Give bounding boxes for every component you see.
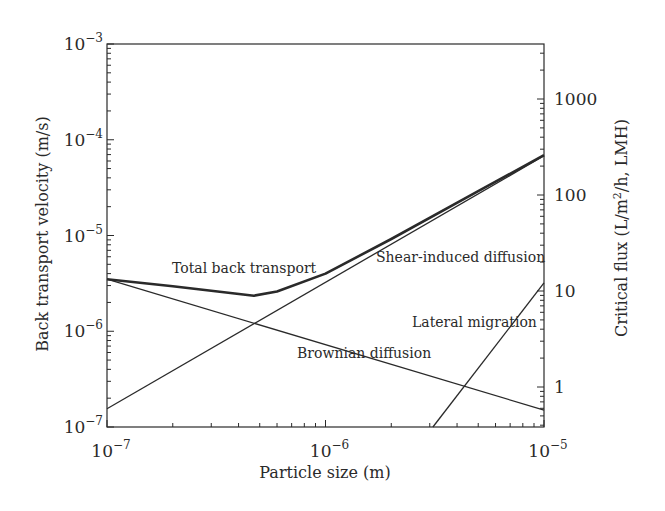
- y-tick-label: 10−7: [64, 414, 103, 437]
- series-annotations: Total back transportShear-induced diffus…: [172, 249, 545, 361]
- y2-axis-title: Critical flux (L/m2/h, LMH): [611, 119, 631, 337]
- y2-tick-label: 1000: [554, 89, 597, 109]
- x-axis-title: Particle size (m): [259, 463, 390, 482]
- y2-tick-label: 10: [554, 281, 576, 301]
- ticks: [107, 44, 544, 427]
- y-axis-title: Back transport velocity (m/s): [33, 116, 52, 351]
- y2-tick-label: 1: [554, 377, 565, 397]
- annotation-brownian-diffusion: Brownian diffusion: [297, 345, 431, 361]
- chart: 10−710−610−510−310−410−510−610−710001001…: [0, 0, 665, 511]
- y-tick-label: 10−4: [64, 127, 104, 150]
- x-tick-label: 10−7: [91, 438, 130, 461]
- series-shear-induced-diffusion: [107, 156, 544, 409]
- y2-tick-label: 100: [554, 185, 586, 205]
- annotation-total-back-transport: Total back transport: [172, 260, 317, 276]
- x-tick-label: 10−5: [528, 438, 567, 461]
- y-tick-label: 10−3: [64, 31, 103, 54]
- plot-frame: [107, 44, 544, 427]
- y-tick-label: 10−6: [64, 318, 103, 341]
- y-tick-label: 10−5: [64, 223, 103, 246]
- annotation-lateral-migration: Lateral migration: [412, 314, 537, 330]
- axes: [107, 44, 544, 427]
- tick-labels: 10−710−610−510−310−410−510−610−710001001…: [64, 31, 598, 461]
- series-layer: [107, 155, 544, 427]
- annotation-shear-induced-diffusion: Shear-induced diffusion: [376, 249, 545, 265]
- x-tick-label: 10−6: [310, 438, 349, 461]
